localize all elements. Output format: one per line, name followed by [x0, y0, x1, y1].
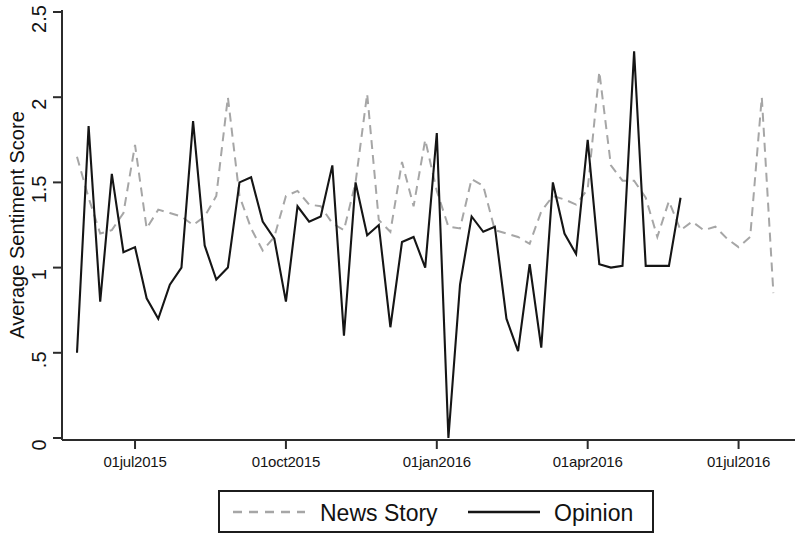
- x-tick-label: 01jan2016: [403, 453, 471, 470]
- chart-figure: Average Sentiment Score 0.511.522.5 01ju…: [0, 0, 801, 535]
- x-tick-label: 01oct2015: [252, 453, 320, 470]
- legend-label-news-story: News Story: [320, 500, 438, 526]
- y-tick-label: 2.5: [28, 5, 50, 33]
- data-series-layer: [77, 51, 773, 438]
- chart-legend: News Story Opinion: [219, 491, 653, 532]
- y-tick-label: 2: [28, 99, 50, 110]
- y-axis-title-label: Average Sentiment Score: [6, 111, 28, 339]
- y-tick-label: 0: [28, 439, 50, 450]
- sentiment-line-chart: Average Sentiment Score 0.511.522.5 01ju…: [0, 0, 801, 535]
- x-tick-label: 01jul2016: [707, 453, 770, 470]
- y-tick-label: 1: [28, 269, 50, 280]
- x-tick-label: 01jul2015: [103, 453, 166, 470]
- y-axis-title: Average Sentiment Score: [6, 111, 28, 339]
- y-axis-ticks: 0.511.522.5: [28, 5, 62, 450]
- y-tick-label: 1.5: [28, 175, 50, 203]
- x-tick-label: 01apr2016: [553, 453, 623, 470]
- y-tick-label: .5: [28, 351, 50, 368]
- legend-label-opinion: Opinion: [554, 500, 633, 526]
- x-axis-ticks: 01jul201501oct201501jan201601apr201601ju…: [103, 440, 770, 470]
- series-line-opinion: [77, 51, 681, 438]
